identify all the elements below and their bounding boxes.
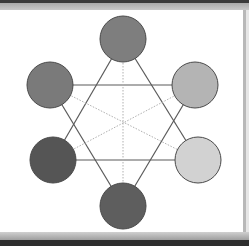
node-bottom bbox=[100, 183, 146, 229]
bottom-border bbox=[0, 240, 249, 246]
diagram-frame bbox=[0, 0, 249, 246]
edges-group bbox=[50, 39, 198, 206]
node-upper-right bbox=[172, 62, 218, 108]
bottom-band bbox=[0, 232, 249, 240]
right-border-outer bbox=[246, 10, 249, 232]
node-upper-left bbox=[27, 62, 73, 108]
nodes-group bbox=[27, 16, 221, 229]
node-lower-right bbox=[175, 137, 221, 183]
node-lower-left bbox=[30, 137, 76, 183]
hexagon-graph bbox=[0, 0, 249, 246]
node-top bbox=[100, 16, 146, 62]
